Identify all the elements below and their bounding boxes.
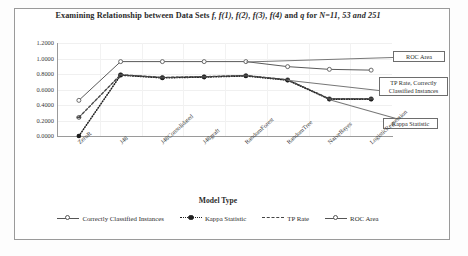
data-point (202, 76, 206, 78)
title-segment-5: for (304, 11, 319, 20)
data-point (286, 65, 290, 69)
legend-marker-icon (325, 214, 347, 222)
y-axis-tick-label: 1.0000 (10, 55, 54, 62)
series-line (79, 75, 371, 118)
roc-area-callout: ROC Area (393, 51, 445, 62)
y-axis-tick-label: 0.2000 (10, 117, 54, 124)
data-point (77, 117, 81, 119)
data-point (119, 60, 123, 64)
data-point (327, 67, 331, 71)
plot-area (58, 43, 392, 136)
y-axis-tick-label: 1.2000 (10, 39, 54, 46)
legend-item-label: Kappa Statistic (205, 215, 246, 222)
chart-image: Examining Relationship between Data Sets… (0, 0, 468, 256)
title-segment-2-italic: f, f(1), f(2), f(3), f(4) (212, 11, 283, 20)
roc-area-callout-label: ROC Area (406, 53, 432, 60)
chart-legend: Correctly Classified InstancesKappa Stat… (0, 214, 436, 222)
series-line (79, 62, 371, 101)
data-point (77, 98, 81, 102)
x-axis-line (57, 136, 393, 137)
legend-marker-icon (262, 214, 284, 222)
chart-title: Examining Relationship between Data Sets… (40, 10, 396, 21)
series-lines (58, 43, 392, 136)
title-segment-6-italic: N=11, 53 and 251 (319, 11, 380, 20)
data-point (202, 60, 206, 64)
y-axis-tick-label: 0.4000 (10, 101, 54, 108)
title-segment-1: Examining Relationship between Data Sets (55, 11, 211, 20)
data-point (160, 60, 164, 64)
tp-rate-cci-callout-line2: Classified Instances (389, 87, 438, 94)
legend-item-label: ROC Area (350, 215, 379, 222)
legend-item: Correctly Classified Instances (57, 214, 164, 222)
legend-marker-icon (57, 214, 79, 222)
series-line (79, 75, 371, 118)
legend-item: TP Rate (262, 214, 309, 222)
title-segment-3: and (282, 11, 300, 20)
legend-item-label: TP Rate (287, 215, 309, 222)
legend-item: Kappa Statistic (180, 214, 246, 222)
legend-item: ROC Area (325, 214, 379, 222)
data-point (244, 75, 248, 77)
y-axis-tick-label: 0.6000 (10, 86, 54, 93)
data-point (369, 68, 373, 72)
legend-item-label: Correctly Classified Instances (82, 215, 164, 222)
tp-rate-cci-callout: TP Rate, Correctly Classified Instances (379, 77, 448, 96)
tp-rate-cci-callout-line1: TP Rate, Correctly (390, 79, 436, 86)
data-point (160, 77, 164, 79)
x-axis-title: Model Type (0, 196, 436, 205)
data-point (118, 74, 122, 76)
legend-marker-icon (180, 214, 202, 222)
y-axis-tick-label: 0.8000 (10, 70, 54, 77)
y-axis-tick-label: 0.0000 (10, 132, 54, 139)
data-point (369, 98, 373, 100)
